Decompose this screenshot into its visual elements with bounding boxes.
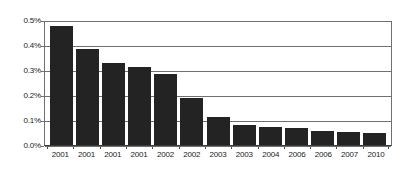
bar-series bbox=[45, 22, 391, 145]
x-axis-label: 2007 bbox=[338, 150, 361, 166]
bar bbox=[154, 74, 177, 146]
x-axis: 2001200120012001200220022003200320042006… bbox=[44, 150, 392, 166]
x-axis-label: 2010 bbox=[364, 150, 387, 166]
bar bbox=[50, 26, 73, 145]
bar bbox=[102, 63, 125, 145]
bar bbox=[311, 131, 334, 146]
bar-chart: 0.0%0.1%0.2%0.3%0.4%0.5% 200120012001200… bbox=[0, 0, 415, 178]
bar bbox=[363, 133, 386, 145]
x-axis-label: 2001 bbox=[128, 150, 151, 166]
x-axis-label: 2003 bbox=[206, 150, 229, 166]
y-axis-label: 0.1% bbox=[1, 117, 41, 125]
bar bbox=[207, 117, 230, 145]
bar bbox=[233, 125, 256, 146]
bar bbox=[259, 127, 282, 145]
x-axis-label: 2001 bbox=[75, 150, 98, 166]
y-axis-label: 0.4% bbox=[1, 42, 41, 50]
bar bbox=[337, 132, 360, 145]
x-axis-label: 2006 bbox=[285, 150, 308, 166]
x-axis-label: 2003 bbox=[233, 150, 256, 166]
plot-area bbox=[44, 21, 392, 146]
bar bbox=[285, 128, 308, 145]
x-axis-label: 2004 bbox=[259, 150, 282, 166]
bar bbox=[180, 98, 203, 145]
y-axis-label: 0.3% bbox=[1, 67, 41, 75]
x-axis-label: 2001 bbox=[49, 150, 72, 166]
x-axis-label: 2001 bbox=[101, 150, 124, 166]
y-axis-label: 0.2% bbox=[1, 92, 41, 100]
gridline-0.0 bbox=[45, 146, 391, 147]
y-axis-label: 0.0% bbox=[1, 142, 41, 150]
y-axis-label: 0.5% bbox=[1, 17, 41, 25]
x-axis-label: 2006 bbox=[312, 150, 335, 166]
bar bbox=[128, 67, 151, 145]
y-axis: 0.0%0.1%0.2%0.3%0.4%0.5% bbox=[0, 21, 41, 146]
x-axis-label: 2002 bbox=[180, 150, 203, 166]
bar bbox=[76, 49, 99, 145]
x-axis-label: 2002 bbox=[154, 150, 177, 166]
